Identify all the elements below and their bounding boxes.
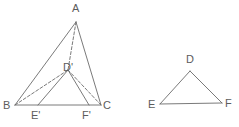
left-vertex-label-b: B	[3, 100, 10, 111]
edge-Dp-Fp	[68, 70, 89, 105]
left-vertex-label-a: A	[72, 3, 79, 14]
edge-E-F	[160, 103, 222, 104]
left-triangle-solid-edges	[15, 22, 101, 105]
right-vertex-label-e: E	[148, 99, 155, 110]
left-vertex-label-fp: F'	[82, 110, 91, 121]
right-vertex-label-f: F	[225, 98, 232, 109]
left-vertex-label-ep: E'	[31, 110, 40, 121]
right-triangle-solid-edges	[160, 71, 222, 104]
left-vertex-label-c: C	[103, 100, 111, 111]
right-vertex-label-d: D	[186, 54, 194, 65]
edge-A-C	[76, 22, 101, 105]
edge-D-E	[160, 71, 190, 104]
left-vertex-label-dp: D'	[63, 62, 73, 73]
edge-B-Dp	[15, 70, 68, 105]
geometry-figure-canvas: ABCD'E'F' DEF	[0, 0, 239, 127]
edge-Ep-Dp	[38, 70, 68, 105]
edge-F-D	[190, 71, 222, 103]
geometry-diagram	[0, 0, 239, 127]
